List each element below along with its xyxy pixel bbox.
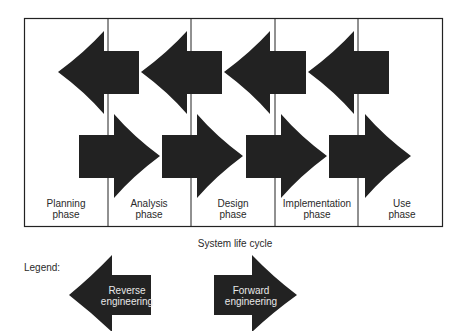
legend-forward-label: Forward engineering bbox=[221, 285, 281, 307]
legend-forward-line2: engineering bbox=[221, 296, 281, 307]
phase-suffix: phase bbox=[362, 209, 442, 220]
forward-arrows bbox=[79, 114, 411, 198]
phase-label-implementation: Implementation phase bbox=[277, 198, 357, 220]
phase-label-design: Design phase bbox=[193, 198, 273, 220]
phase-name: Use bbox=[362, 198, 442, 209]
forward-arrow-icon bbox=[246, 114, 327, 198]
legend-forward-line1: Forward bbox=[221, 285, 281, 296]
reverse-arrow-icon bbox=[308, 31, 389, 114]
forward-arrow-icon bbox=[162, 114, 243, 198]
phase-suffix: phase bbox=[109, 209, 189, 220]
phase-name: Implementation bbox=[277, 198, 357, 209]
phase-label-use: Use phase bbox=[362, 198, 442, 220]
legend-reverse-line1: Reverse bbox=[97, 285, 157, 296]
reverse-arrow-icon bbox=[141, 31, 222, 114]
legend-title: Legend: bbox=[24, 262, 84, 273]
diagram-caption: System life cycle bbox=[180, 238, 290, 249]
legend-reverse-label: Reverse engineering bbox=[97, 285, 157, 307]
phase-label-analysis: Analysis phase bbox=[109, 198, 189, 220]
phase-name: Design bbox=[193, 198, 273, 209]
phase-name: Planning bbox=[26, 198, 106, 209]
phase-suffix: phase bbox=[193, 209, 273, 220]
phase-label-planning: Planning phase bbox=[26, 198, 106, 220]
forward-arrow-icon bbox=[79, 114, 160, 198]
life-cycle-diagram bbox=[0, 0, 460, 331]
phase-suffix: phase bbox=[277, 209, 357, 220]
forward-arrow-icon bbox=[329, 114, 411, 198]
phase-suffix: phase bbox=[26, 209, 106, 220]
reverse-arrow-icon bbox=[58, 31, 139, 114]
reverse-arrow-icon bbox=[224, 31, 306, 114]
legend-reverse-line2: engineering bbox=[97, 296, 157, 307]
phase-name: Analysis bbox=[109, 198, 189, 209]
